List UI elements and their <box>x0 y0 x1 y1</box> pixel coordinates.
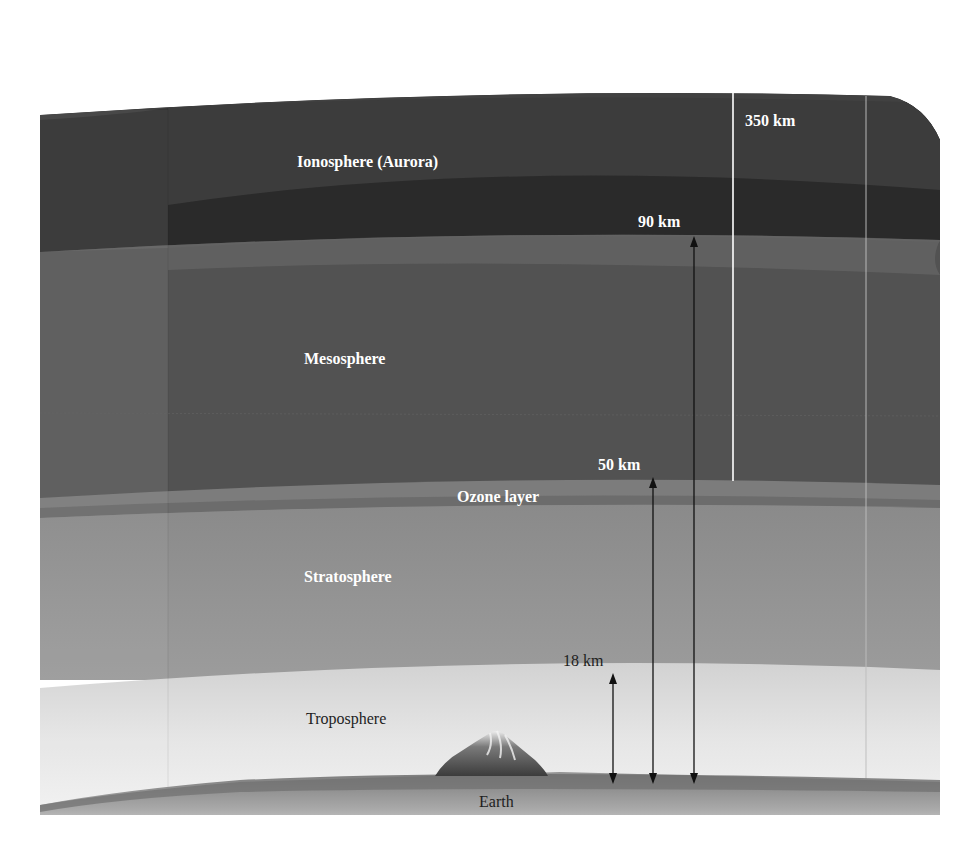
label-18km: 18 km <box>563 653 603 669</box>
label-50km: 50 km <box>598 457 640 473</box>
mesosphere-layer <box>168 236 940 500</box>
label-ozone-layer: Ozone layer <box>457 489 539 505</box>
label-earth: Earth <box>479 794 514 810</box>
left-side-face <box>40 110 168 810</box>
label-ionosphere: Ionosphere (Aurora) <box>297 154 438 170</box>
arrow-head-up-icon <box>729 52 737 66</box>
label-troposphere: Troposphere <box>306 711 386 727</box>
atmosphere-block <box>40 80 940 852</box>
label-350km: 350 km <box>745 113 795 129</box>
label-mesosphere: Mesosphere <box>304 351 385 367</box>
label-stratosphere: Stratosphere <box>304 569 392 585</box>
bottom-fade <box>0 815 977 852</box>
label-90km: 90 km <box>638 214 680 230</box>
atmosphere-diagram: Ionosphere (Aurora) Mesosphere Ozone lay… <box>0 0 977 852</box>
atmosphere-illustration <box>0 0 977 852</box>
stratosphere-layer <box>40 505 940 680</box>
